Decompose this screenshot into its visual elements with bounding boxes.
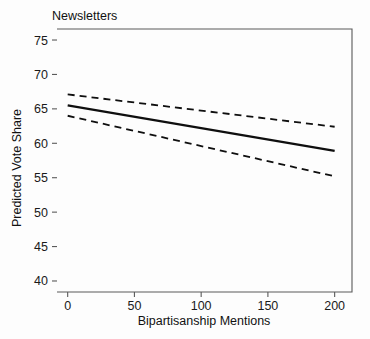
y-tick-label: 65 — [34, 102, 48, 116]
chart-background — [0, 0, 370, 339]
y-tick-label: 40 — [34, 274, 48, 288]
x-tick-label: 0 — [64, 299, 71, 313]
x-tick-label: 50 — [127, 299, 141, 313]
y-axis-title: Predicted Vote Share — [10, 109, 24, 227]
y-tick-label: 55 — [34, 171, 48, 185]
y-tick-label: 60 — [34, 137, 48, 151]
x-tick-label: 200 — [324, 299, 345, 313]
x-axis-title: Bipartisanship Mentions — [138, 314, 271, 328]
x-tick-label: 150 — [257, 299, 278, 313]
x-tick-label: 100 — [191, 299, 212, 313]
y-tick-label: 70 — [34, 68, 48, 82]
y-tick-label: 50 — [34, 206, 48, 220]
y-tick-label: 75 — [34, 34, 48, 48]
chart-canvas: Newsletters Predicted Vote Share Biparti… — [0, 0, 370, 339]
chart-container: Newsletters Predicted Vote Share Biparti… — [0, 0, 370, 339]
chart-title: Newsletters — [52, 9, 117, 23]
y-tick-label: 45 — [34, 240, 48, 254]
